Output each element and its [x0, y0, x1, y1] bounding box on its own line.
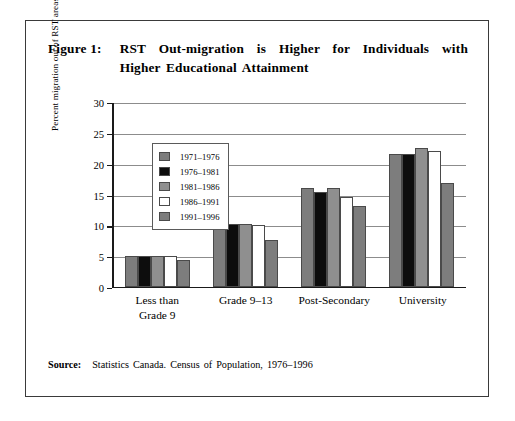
- bar: [252, 225, 265, 286]
- bar: [301, 188, 314, 287]
- bar: [265, 240, 278, 286]
- bar: [327, 188, 340, 287]
- x-axis-category-label-line: Post-Secondary: [290, 293, 379, 308]
- legend-item: 1976–1981: [159, 164, 220, 179]
- legend-label: 1991–1996: [180, 212, 220, 222]
- figure-frame: Figure 1: RST Out-migration is Higher fo…: [25, 20, 489, 397]
- legend-label: 1981–1986: [180, 182, 220, 192]
- y-tick-label: 5: [99, 252, 104, 263]
- y-tick-label: 25: [93, 128, 104, 139]
- bar: [415, 148, 428, 287]
- source-label: Source:: [48, 359, 81, 370]
- figure-title-line-2: Higher Educational Attainment: [120, 58, 468, 77]
- y-tick-label: 20: [93, 159, 104, 170]
- legend-swatch: [159, 212, 170, 221]
- legend-label: 1976–1981: [180, 167, 220, 177]
- x-axis-category-label: Grade 9–13: [202, 293, 291, 323]
- x-axis-category-label-line: Grade 9–13: [202, 293, 291, 308]
- bar: [138, 256, 151, 287]
- x-axis-category-label: Post-Secondary: [290, 293, 379, 323]
- legend-item: 1981–1986: [159, 179, 220, 194]
- figure-title: Figure 1: RST Out-migration is Higher fo…: [48, 39, 468, 77]
- x-axis-category-label-line: Less than: [113, 293, 202, 308]
- bar: [239, 224, 252, 286]
- bar: [177, 260, 190, 287]
- bar: [164, 256, 177, 287]
- x-axis-category-label-line: Grade 9: [113, 308, 202, 323]
- x-axis-category-label: University: [379, 293, 468, 323]
- bar: [226, 224, 239, 287]
- x-axis-category-label: Less thanGrade 9: [113, 293, 202, 323]
- figure-title-line-1: RST Out-migration is Higher for Individu…: [120, 39, 468, 58]
- legend-swatch: [159, 197, 170, 206]
- legend-item: 1991–1996: [159, 209, 220, 224]
- x-axis-category-labels: Less thanGrade 9Grade 9–13Post-Secondary…: [113, 293, 467, 323]
- legend-label: 1971–1976: [180, 152, 220, 162]
- x-axis-line: [112, 287, 466, 289]
- bar: [441, 183, 454, 287]
- bar-group: [290, 103, 378, 287]
- legend-swatch: [159, 182, 170, 191]
- y-tick-label: 30: [93, 98, 104, 109]
- bar: [340, 197, 353, 286]
- x-axis-category-label-line: University: [379, 293, 468, 308]
- bar: [213, 224, 226, 286]
- y-tick-label: 10: [93, 221, 104, 232]
- bar: [389, 154, 402, 287]
- bar: [353, 206, 366, 286]
- legend-swatch: [159, 167, 170, 176]
- legend-swatch: [159, 152, 170, 161]
- y-tick-mark: [107, 288, 112, 289]
- y-tick-label: 0: [99, 283, 104, 294]
- source-note: Source:Statistics Canada. Census of Popu…: [48, 359, 313, 370]
- legend-label: 1986–1991: [180, 197, 220, 207]
- bar-group: [378, 103, 466, 287]
- chart-legend: 1971–19761976–19811981–19861986–19911991…: [152, 143, 229, 230]
- y-axis-title: Percent migration out of RST areas: [50, 0, 64, 131]
- bar: [125, 256, 138, 287]
- y-tick-label: 15: [93, 190, 104, 201]
- legend-item: 1986–1991: [159, 194, 220, 209]
- bar: [314, 192, 327, 286]
- bar: [402, 154, 415, 287]
- bar: [151, 256, 164, 287]
- source-text: Statistics Canada. Census of Population,…: [92, 359, 313, 370]
- bar: [428, 151, 441, 287]
- legend-item: 1971–1976: [159, 149, 220, 164]
- bar-chart: Percent migration out of RST areas 05101…: [56, 103, 466, 333]
